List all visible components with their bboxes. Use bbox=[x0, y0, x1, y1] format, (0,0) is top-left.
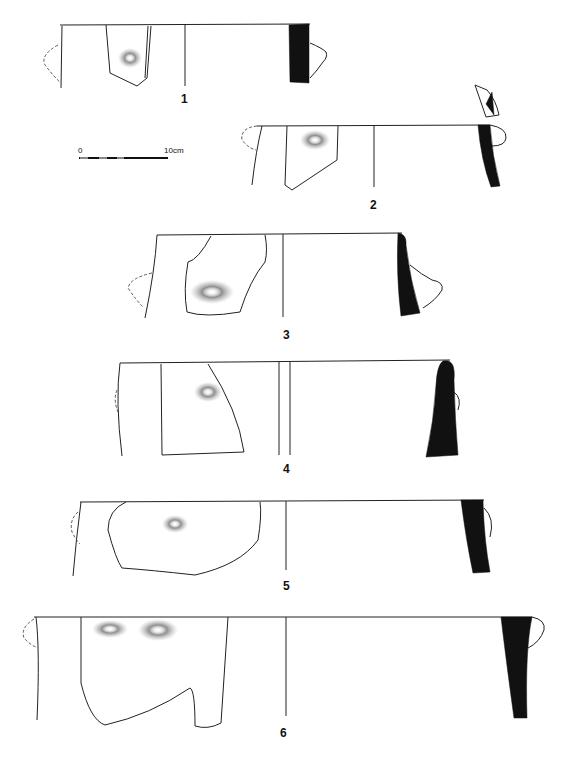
vessel-drawing-1 bbox=[44, 24, 327, 88]
stippled-boss-6a bbox=[92, 620, 128, 638]
stippled-boss-5 bbox=[162, 515, 188, 533]
stippled-boss-6b bbox=[138, 619, 178, 641]
pottery-drawing-canvas bbox=[0, 0, 568, 778]
vessel-drawing-3 bbox=[128, 233, 442, 318]
vessel-drawing-4 bbox=[115, 360, 459, 457]
figure-label-2: 2 bbox=[370, 198, 377, 212]
vessel-drawing-6 bbox=[23, 617, 544, 727]
stippled-boss-2 bbox=[300, 130, 330, 150]
scale-bar-start-label: 0 bbox=[78, 146, 82, 155]
handle-section-detail bbox=[475, 85, 499, 117]
scale-bar-end-label: 10cm bbox=[164, 146, 184, 155]
figure-label-4: 4 bbox=[283, 462, 290, 476]
figure-label-5: 5 bbox=[283, 579, 290, 593]
figure-label-6: 6 bbox=[280, 726, 287, 740]
stippled-boss-3 bbox=[190, 280, 234, 304]
vessel-drawing-2 bbox=[242, 85, 506, 190]
figure-label-1: 1 bbox=[181, 92, 188, 106]
vessel-drawing-5 bbox=[71, 500, 491, 576]
stippled-boss-4 bbox=[194, 382, 222, 402]
figure-label-3: 3 bbox=[283, 328, 290, 342]
stippled-boss-1 bbox=[118, 48, 142, 68]
